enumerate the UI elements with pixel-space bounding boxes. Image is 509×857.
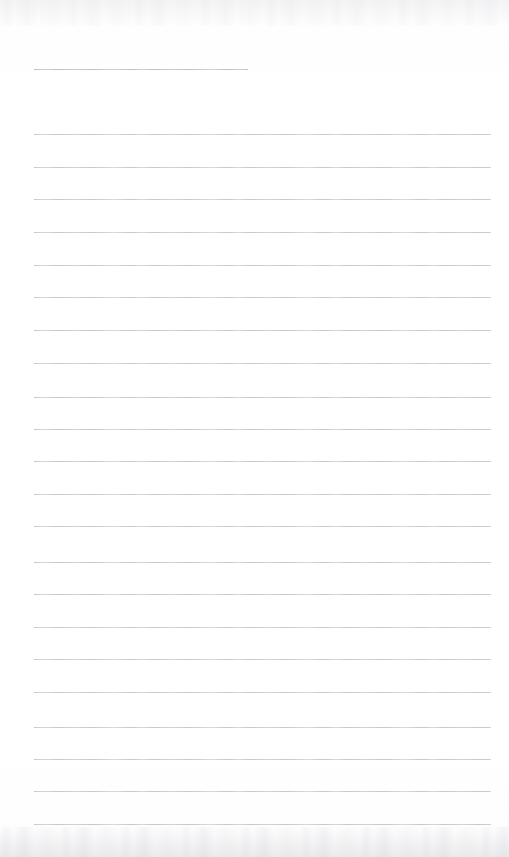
rule-line-17: [34, 659, 491, 660]
rule-line-1: [34, 134, 491, 135]
rule-line-3: [34, 199, 491, 200]
rule-line-16: [34, 627, 491, 628]
rule-line-15: [34, 594, 491, 595]
rule-line-8: [34, 363, 491, 364]
rule-line-20: [34, 759, 491, 760]
rule-line-4: [34, 232, 491, 233]
rule-line-9: [34, 397, 491, 398]
rule-line-14: [34, 562, 491, 563]
rule-line-18: [34, 692, 491, 693]
rule-line-13: [34, 526, 491, 527]
notepad-page: [0, 0, 509, 857]
rule-line-11: [34, 461, 491, 462]
rule-line-19: [34, 727, 491, 728]
rule-line-6: [34, 297, 491, 298]
rule-line-2: [34, 167, 491, 168]
rule-line-12: [34, 494, 491, 495]
rule-line-10: [34, 429, 491, 430]
rule-line-7: [34, 330, 491, 331]
rule-line-22: [34, 824, 491, 825]
rule-line-21: [34, 791, 491, 792]
rule-line-5: [34, 265, 491, 266]
title-rule-line: [34, 69, 248, 70]
